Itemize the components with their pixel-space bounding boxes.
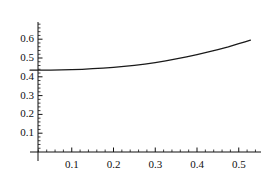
x-tick-label: 0.5: [224, 159, 254, 170]
axes-group: [30, 22, 261, 161]
chart-figure: 0.10.20.30.40.50.6 0.10.20.30.40.5: [0, 0, 270, 182]
x-tick-label: 0.3: [140, 159, 170, 170]
x-tick-label: 0.2: [99, 159, 129, 170]
y-tick-label: 0.5: [20, 52, 34, 63]
x-tick-label: 0.1: [57, 159, 87, 170]
y-tick-label: 0.6: [20, 33, 34, 44]
y-tick-label: 0.3: [20, 90, 34, 101]
plot-canvas: [0, 0, 270, 182]
y-tick-label: 0.2: [20, 108, 34, 119]
y-tick-label: 0.1: [20, 127, 34, 138]
data-curve: [30, 40, 250, 70]
y-major-tick-group: [38, 39, 43, 133]
x-tick-label: 0.4: [182, 159, 212, 170]
y-tick-label: 0.4: [20, 71, 34, 82]
